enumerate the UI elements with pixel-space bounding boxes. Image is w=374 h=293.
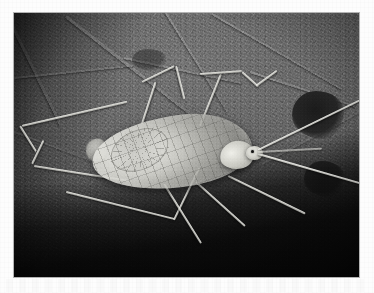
leg [19,125,37,152]
leg [228,175,306,214]
antenna [258,148,322,153]
antenna [258,92,359,151]
leg [31,140,44,164]
leg [195,181,245,227]
leg [66,191,175,220]
wing-cell [104,120,175,180]
leg [142,65,175,83]
leg [175,66,185,99]
photograph[interactable] [14,13,359,277]
scanned-page: Winged insect resting on a leaf [0,0,374,293]
insect [14,13,359,277]
eye [251,150,254,153]
leg [255,70,277,87]
antenna [258,153,359,188]
leg [163,183,202,243]
scan-artifact-band [6,279,366,292]
